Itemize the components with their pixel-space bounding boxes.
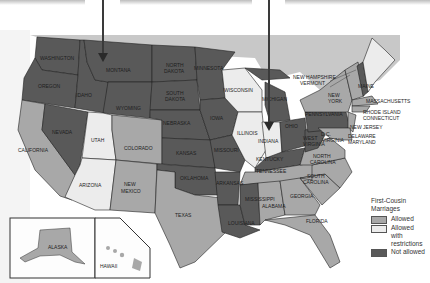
state-arkansas	[215, 172, 240, 205]
label-utah: UTAH	[91, 137, 105, 143]
label-kansas: KANSAS	[176, 150, 197, 156]
label-maine: MAINE	[358, 83, 375, 89]
state-montana	[84, 40, 152, 82]
label-vermont: VERMONT	[300, 80, 325, 86]
label-connecticut: CONNECTICUT	[363, 115, 399, 121]
label-colorado: COLORADO	[124, 145, 153, 151]
state-colorado	[112, 115, 162, 164]
arrowhead-indiana	[264, 122, 274, 131]
label-arkansas: ARKANSAS	[216, 180, 244, 186]
label-north-carolina-2: CAROLINA	[310, 159, 336, 165]
label-west-virginia-2: VIRGINIA	[303, 141, 326, 147]
label-minnesota: MINNESOTA	[194, 65, 224, 71]
legend-label-restricted: Allowed with restrictions	[391, 224, 430, 248]
legend-swatch-allowed	[371, 216, 387, 224]
label-idaho: IDAHO	[76, 92, 92, 98]
label-new-york-2: YORK	[328, 98, 343, 104]
label-virginia: VIRGINIA	[322, 137, 345, 143]
state-wyoming	[103, 82, 152, 118]
label-ohio: OHIO	[285, 123, 298, 129]
label-florida: FLORIDA	[306, 218, 328, 224]
label-oklahoma: OKLAHOMA	[180, 175, 209, 181]
label-south-dakota-2: DAKOTA	[165, 96, 186, 102]
pointer-arrow-montana	[102, 0, 104, 55]
label-louisiana: LOUISIANA	[228, 220, 255, 226]
state-florida	[265, 215, 340, 268]
label-nevada: NEVADA	[52, 129, 73, 135]
top-tab-right	[285, 0, 430, 5]
state-utah	[82, 112, 116, 160]
map-legend: First-Cousin Marriages Allowed Allowed w…	[371, 197, 430, 257]
arrowhead-montana	[98, 53, 108, 62]
label-washington: WASHINGTON	[40, 55, 75, 61]
label-california: CALIFORNIA	[18, 147, 49, 153]
label-nebraska: NEBRASKA	[163, 120, 191, 126]
legend-item-not-allowed: Not allowed	[371, 248, 430, 257]
label-kentucky: KENTUCKY	[256, 156, 284, 162]
us-choropleth-map: WASHINGTON OREGON IDAHO MONTANA WYOMING …	[0, 30, 430, 283]
label-dc: D.C.	[321, 131, 331, 137]
label-michigan: MICHIGAN	[262, 96, 287, 102]
legend-label-not-allowed: Not allowed	[391, 248, 425, 256]
label-tennessee: TENNESSEE	[256, 168, 287, 174]
label-montana: MONTANA	[106, 67, 131, 73]
legend-title: First-Cousin Marriages	[371, 197, 430, 213]
legend-swatch-not-allowed	[371, 249, 387, 257]
label-south-carolina-2: CAROLINA	[303, 179, 329, 185]
label-iowa: IOWA	[210, 115, 224, 121]
legend-label-restricted-sub: with restrictions	[391, 232, 422, 247]
label-new-mexico-1: NEW	[124, 181, 136, 187]
label-pennsylvania: PENNSYLVANIA	[305, 111, 343, 117]
label-new-mexico-2: MEXICO	[121, 188, 141, 194]
label-illinois: ILLINOIS	[237, 130, 258, 136]
label-missouri: MISSOURI	[214, 147, 239, 153]
label-alaska: ALASKA	[48, 244, 68, 250]
legend-item-restricted: Allowed with restrictions	[371, 224, 430, 248]
legend-label-allowed: Allowed	[391, 215, 414, 223]
label-alabama: ALABAMA	[262, 203, 286, 209]
label-arizona: ARIZONA	[79, 182, 102, 188]
label-mississippi: MISSISSIPPI	[245, 196, 275, 202]
label-indiana: INDIANA	[258, 138, 279, 144]
label-texas: TEXAS	[175, 212, 192, 218]
label-oregon: OREGON	[38, 83, 61, 89]
legend-item-allowed: Allowed	[371, 215, 430, 224]
label-hawaii: HAWAII	[100, 263, 117, 269]
top-tab-middle	[120, 0, 252, 5]
label-massachusetts: MASSACHUSETTS	[366, 98, 411, 104]
label-wyoming: WYOMING	[116, 105, 141, 111]
label-wisconsin: WISCONSIN	[224, 87, 253, 93]
label-georgia: GEORGIA	[290, 193, 314, 199]
legend-swatch-restricted	[371, 225, 387, 233]
hawaii-inset	[95, 218, 150, 278]
top-tab-left	[0, 0, 85, 5]
pointer-arrow-indiana	[268, 0, 270, 124]
label-new-jersey: NEW JERSEY	[350, 124, 383, 130]
legend-label-restricted-main: Allowed	[391, 224, 414, 231]
label-maryland: MARYLAND	[348, 139, 376, 145]
label-north-dakota-2: DAKOTA	[164, 68, 185, 74]
